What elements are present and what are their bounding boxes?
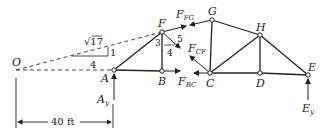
truss-members — [114, 20, 308, 75]
label-B: B — [157, 75, 166, 88]
label-D: D — [255, 77, 265, 90]
slope-cf-hyp: 5 — [177, 34, 183, 44]
joint-D — [258, 71, 262, 75]
label-A: A — [100, 72, 109, 85]
label-F-BC: FBC — [177, 75, 197, 89]
joint-F — [160, 30, 164, 34]
member-GH — [212, 20, 260, 35]
dimension-label: 40 ft — [51, 116, 75, 127]
member-HE — [260, 35, 308, 75]
label-F-CF: FCF — [187, 42, 207, 56]
truss-diagram: √17 1 4 3 4 5 — [0, 0, 330, 135]
member-DE — [260, 73, 308, 75]
member-AB — [114, 70, 162, 71]
slope-run-label: 4 — [90, 59, 96, 70]
label-O: O — [12, 56, 21, 69]
label-C: C — [206, 77, 215, 90]
slope-triangle-fg — [72, 47, 108, 56]
slope-cf-run: 4 — [167, 48, 173, 58]
slope-hyp-label: √17 — [84, 36, 103, 47]
member-CH — [210, 35, 260, 73]
joint-A — [112, 68, 116, 72]
joint-B — [160, 69, 164, 73]
label-A-y: Ay — [96, 93, 110, 107]
member-GC — [210, 20, 212, 73]
truss-svg: √17 1 4 3 4 5 — [0, 0, 330, 135]
slope-cf-rise: 3 — [155, 38, 161, 48]
label-F: F — [157, 17, 166, 30]
arrow-F-CF-right — [190, 56, 210, 73]
label-H: H — [255, 21, 266, 34]
label-G: G — [208, 5, 217, 18]
joint-C — [208, 71, 212, 75]
joint-G — [210, 18, 214, 22]
label-E-y: Ey — [301, 102, 315, 116]
slope-rise-label: 1 — [110, 47, 116, 58]
label-E: E — [307, 61, 316, 74]
label-F-FG: FFG — [175, 8, 194, 22]
